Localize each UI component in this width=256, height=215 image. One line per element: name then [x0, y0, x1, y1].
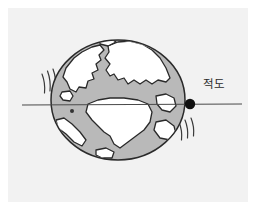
- landmass-small-island-left: [60, 91, 73, 101]
- surface-point-marker: [70, 109, 74, 113]
- earth-globe: [51, 38, 185, 160]
- equator-label: 적도: [203, 78, 225, 91]
- figure-root: 적도: [0, 0, 256, 215]
- equator-point-marker: [185, 99, 195, 109]
- equator-diagram-svg: [0, 0, 256, 215]
